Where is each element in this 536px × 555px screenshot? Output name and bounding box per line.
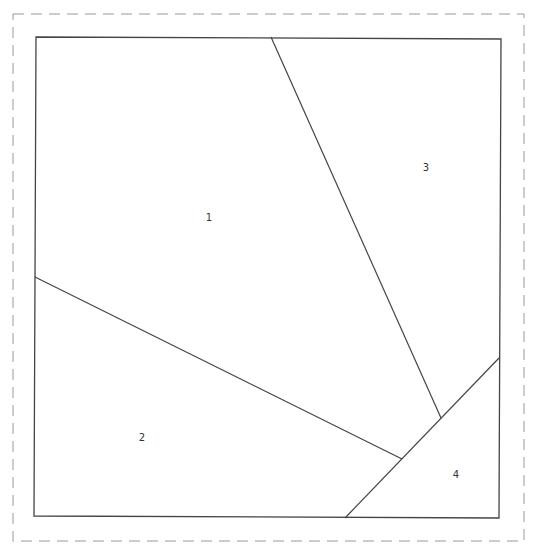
quilt-pattern-diagram: 1234	[0, 0, 536, 555]
region-label-1: 1	[206, 212, 212, 223]
region-label-3: 3	[423, 162, 429, 173]
block-outline	[34, 37, 501, 518]
region-label-2: 2	[139, 432, 145, 443]
region-label-4: 4	[453, 469, 459, 480]
